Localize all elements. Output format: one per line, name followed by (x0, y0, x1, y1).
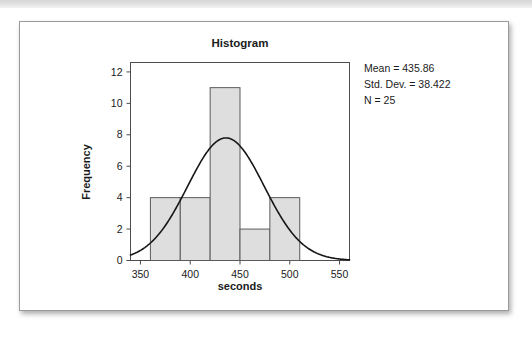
y-tick-label: 4 (117, 191, 123, 203)
statistics-annotation: Mean = 435.86 Std. Dev. = 38.422 N = 25 (364, 62, 451, 106)
histogram-chart: Histogram Frequency seconds 024681012 35… (20, 22, 510, 312)
x-axis: 350400450500550 (132, 261, 349, 280)
page-top-strip (0, 0, 532, 8)
histogram-bars (150, 88, 299, 261)
x-tick-label: 350 (132, 268, 150, 280)
histogram-bar (240, 229, 270, 260)
x-tick-label: 400 (181, 268, 199, 280)
stat-mean: Mean = 435.86 (364, 62, 435, 74)
x-tick-label: 450 (231, 268, 249, 280)
y-axis: 024681012 (111, 66, 131, 267)
x-axis-title: seconds (218, 280, 263, 292)
y-tick-label: 6 (117, 160, 123, 172)
histogram-bar (180, 198, 210, 261)
stat-n: N = 25 (364, 94, 395, 106)
y-tick-label: 12 (111, 66, 123, 78)
y-tick-label: 8 (117, 128, 123, 140)
y-tick-label: 0 (117, 254, 123, 266)
x-tick-label: 550 (331, 268, 349, 280)
figure-card: Histogram Frequency seconds 024681012 35… (19, 21, 509, 311)
stat-std-dev: Std. Dev. = 38.422 (364, 78, 451, 90)
y-tick-label: 2 (117, 223, 123, 235)
y-tick-label: 10 (111, 97, 123, 109)
histogram-svg: Histogram Frequency seconds 024681012 35… (20, 22, 510, 312)
chart-title: Histogram (212, 37, 269, 49)
histogram-bar (210, 88, 240, 261)
x-tick-label: 500 (281, 268, 299, 280)
y-axis-title: Frequency (80, 143, 92, 200)
